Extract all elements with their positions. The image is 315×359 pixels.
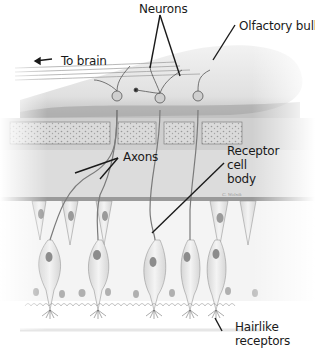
- hairlike-line-2: receptors: [235, 334, 290, 348]
- label-olfactory-bulb: Olfactory bulb: [239, 19, 315, 33]
- label-hairlike-receptors: Hairlike receptors: [235, 320, 290, 348]
- label-receptor-cell-body: Receptor cell body: [227, 144, 279, 186]
- hairlike-line-1: Hairlike: [235, 320, 290, 334]
- artist-signature: C. Wolnik: [222, 192, 242, 197]
- receptor-line-2: cell: [227, 158, 279, 172]
- receptor-line-1: Receptor: [227, 144, 279, 158]
- label-to-brain: To brain: [61, 54, 107, 68]
- label-axons: Axons: [123, 150, 158, 164]
- label-neurons: Neurons: [139, 2, 187, 16]
- receptor-line-3: body: [227, 172, 279, 186]
